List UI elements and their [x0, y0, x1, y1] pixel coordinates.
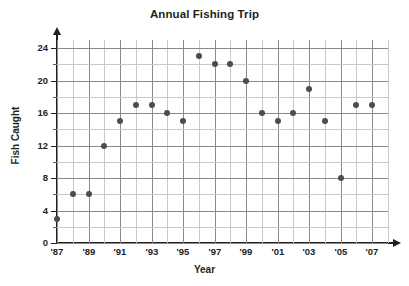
x-axis-title: Year	[0, 264, 409, 275]
chart-page: Annual Fishing Trip 04812162024 '87'89'9…	[0, 0, 409, 286]
gridline-horizontal	[57, 64, 388, 65]
gridline-vertical	[246, 40, 247, 243]
gridline-horizontal	[57, 48, 388, 49]
y-axis-tick-mark	[51, 243, 57, 244]
gridline-vertical	[215, 40, 216, 243]
data-point	[164, 110, 170, 116]
y-axis-tick-mark	[53, 64, 57, 65]
data-point	[243, 78, 249, 84]
x-axis-tick-label: '07	[360, 246, 384, 257]
data-point	[196, 53, 202, 59]
y-axis-tick-label: 20	[28, 75, 48, 86]
x-axis-tick-label: '91	[108, 246, 132, 257]
data-point	[101, 143, 107, 149]
x-axis-tick-label: '93	[140, 246, 164, 257]
y-axis-tick-mark	[51, 81, 57, 82]
gridline-vertical	[278, 40, 279, 243]
data-point	[86, 191, 92, 197]
gridline-vertical	[57, 40, 58, 243]
gridline-vertical	[89, 40, 90, 243]
data-point	[54, 216, 60, 222]
y-axis-tick-mark	[51, 211, 57, 212]
gridline-vertical	[183, 40, 184, 243]
x-axis-tick-label: '87	[45, 246, 69, 257]
gridline-vertical	[309, 40, 310, 243]
gridline-vertical	[372, 40, 373, 243]
data-point	[180, 118, 186, 124]
y-axis-tick-mark	[53, 97, 57, 98]
data-point	[353, 102, 359, 108]
data-point	[338, 175, 344, 181]
x-axis-tick-label: '05	[329, 246, 353, 257]
x-axis-tick-label: '01	[266, 246, 290, 257]
y-axis-tick-mark	[53, 129, 57, 130]
y-axis-tick-label: 4	[28, 205, 48, 216]
plot-area	[57, 40, 388, 243]
y-axis-tick-label: 24	[28, 42, 48, 53]
y-axis-tick-label: 12	[28, 140, 48, 151]
data-point	[133, 102, 139, 108]
data-point	[149, 102, 155, 108]
gridline-horizontal	[57, 243, 388, 244]
y-axis-tick-mark	[53, 227, 57, 228]
data-point	[212, 61, 218, 67]
gridline-vertical	[199, 40, 200, 243]
gridline-vertical	[356, 40, 357, 243]
gridline-vertical	[341, 40, 342, 243]
data-point	[275, 118, 281, 124]
gridline-vertical	[325, 40, 326, 243]
gridline-horizontal	[57, 113, 388, 114]
x-axis-tick-label: '99	[234, 246, 258, 257]
x-axis-tick-label: '89	[77, 246, 101, 257]
gridline-vertical	[230, 40, 231, 243]
data-point	[70, 191, 76, 197]
gridline-horizontal	[57, 162, 388, 163]
y-axis-tick-labels: 04812162024	[24, 0, 48, 286]
gridline-vertical	[388, 40, 389, 243]
gridline-horizontal	[57, 97, 388, 98]
gridline-vertical	[120, 40, 121, 243]
gridline-horizontal	[57, 227, 388, 228]
y-axis-tick-mark	[53, 194, 57, 195]
y-axis-tick-mark	[51, 178, 57, 179]
y-axis-tick-mark	[51, 48, 57, 49]
data-point	[259, 110, 265, 116]
y-axis-tick-label: 16	[28, 107, 48, 118]
page-title: Annual Fishing Trip	[0, 8, 409, 20]
y-axis-tick-mark	[53, 162, 57, 163]
data-point	[227, 61, 233, 67]
gridline-vertical	[167, 40, 168, 243]
y-axis-tick-mark	[51, 146, 57, 147]
gridline-horizontal	[57, 81, 388, 82]
gridline-vertical	[152, 40, 153, 243]
data-point	[290, 110, 296, 116]
y-axis-tick-label: 8	[28, 172, 48, 183]
x-axis-tick-label: '97	[203, 246, 227, 257]
data-point	[369, 102, 375, 108]
y-axis-tick-mark	[51, 113, 57, 114]
y-axis-arrow-icon	[53, 27, 61, 35]
data-point	[306, 86, 312, 92]
gridline-vertical	[104, 40, 105, 243]
gridline-horizontal	[57, 211, 388, 212]
gridline-horizontal	[57, 194, 388, 195]
x-axis-tick-labels: '87'89'91'93'95'97'99'01'03'05'07	[0, 246, 409, 262]
gridline-horizontal	[57, 129, 388, 130]
gridline-vertical	[73, 40, 74, 243]
gridline-vertical	[136, 40, 137, 243]
x-axis-tick-label: '95	[171, 246, 195, 257]
gridline-vertical	[262, 40, 263, 243]
data-point	[117, 118, 123, 124]
x-axis-tick-label: '03	[297, 246, 321, 257]
data-point	[322, 118, 328, 124]
gridline-vertical	[293, 40, 294, 243]
y-axis-title: Fish Caught	[10, 96, 21, 176]
